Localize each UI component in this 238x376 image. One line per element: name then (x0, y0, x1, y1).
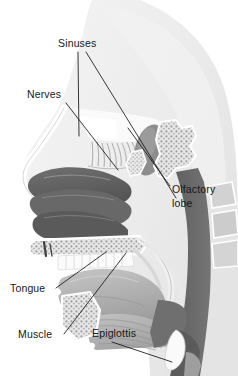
label-sinuses: Sinuses (58, 37, 96, 49)
label-tongue: Tongue (10, 282, 45, 294)
label-olfactory-lobe-line1: Olfactory (172, 183, 216, 195)
anatomy-figure: Sinuses Nerves Olfactory lobe Tongue Mus… (0, 0, 238, 376)
label-olfactory-lobe-line2: lobe (172, 197, 192, 209)
label-nerves: Nerves (27, 88, 61, 100)
label-muscle: Muscle (18, 328, 52, 340)
label-epiglottis: Epiglottis (92, 327, 136, 339)
nasal-turbinates (28, 167, 132, 238)
